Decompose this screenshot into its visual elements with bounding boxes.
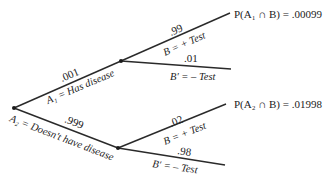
event-a1: A₁ = Has disease xyxy=(44,67,117,106)
event-a1-bprime: B′ = – Test xyxy=(170,71,217,82)
prob-a1-bprime: .01 xyxy=(184,52,198,64)
prob-a2-bprime: .98 xyxy=(177,144,193,158)
result-a2-b: P(A₂ ∩ B) = .01998 xyxy=(234,98,322,111)
root-node xyxy=(12,106,16,110)
node-a2 xyxy=(116,146,120,150)
event-a2: A₂ = Doesn't have disease xyxy=(7,112,115,162)
branch-a1-bprime xyxy=(121,61,231,69)
branch-a1-b xyxy=(121,13,230,61)
prob-a1-b: .99 xyxy=(167,21,185,38)
result-a1-b: P(A₁ ∩ B) = .00099 xyxy=(234,8,322,21)
event-a2-bprime: B′ = – Test xyxy=(152,158,200,175)
node-a1 xyxy=(119,59,123,63)
probability-tree-diagram: .001 A₁ = Has disease .999 A₂ = Doesn't … xyxy=(0,0,335,181)
prob-a2-b: .02 xyxy=(167,113,184,129)
